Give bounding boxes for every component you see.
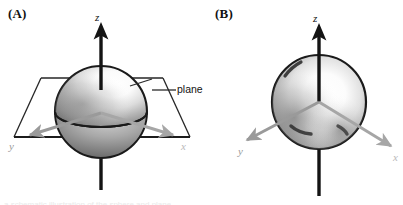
z-axis-label-a: z [95, 12, 99, 23]
panel-a: (A) [0, 0, 205, 205]
y-axis-label-a: y [9, 141, 14, 152]
panel-b-diagram [205, 0, 403, 205]
x-axis-label-a: x [181, 141, 186, 152]
x-axis-label-b: x [393, 152, 398, 163]
panel-b: (B) [205, 0, 403, 205]
y-axis-label-b: y [238, 146, 243, 157]
plane-callout-label: plane [177, 84, 203, 95]
caption-sliver: a schematic illustration of the sphere a… [4, 199, 171, 205]
z-axis-label-b: z [313, 13, 317, 24]
figure-root: (A) [0, 0, 403, 205]
panel-a-diagram [0, 0, 205, 205]
